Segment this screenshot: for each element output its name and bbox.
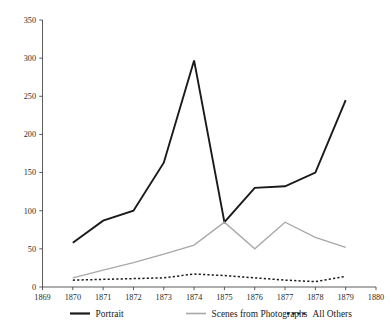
x-axis: 1869187018711872187318741875187618771878… (34, 287, 384, 302)
x-tick-label: 1873 (156, 293, 172, 302)
x-tick-label: 1874 (186, 293, 202, 302)
y-axis: 050100150200250300350 (24, 16, 43, 292)
legend-label-all-others: All Others (313, 309, 353, 319)
line-chart: 050100150200250300350 186918701871187218… (0, 0, 390, 326)
y-tick-label: 150 (24, 168, 36, 177)
y-tick-label: 0 (32, 283, 36, 292)
x-tick-label: 1878 (307, 293, 323, 302)
y-tick-label: 50 (28, 245, 36, 254)
x-tick-label: 1877 (277, 293, 293, 302)
y-tick-label: 350 (24, 16, 36, 25)
x-tick-label: 1880 (368, 293, 384, 302)
x-tick-label: 1876 (247, 293, 263, 302)
x-tick-label: 1879 (337, 293, 353, 302)
x-tick-label: 1870 (65, 293, 81, 302)
y-tick-label: 300 (24, 54, 36, 63)
series-line-all-others (73, 274, 346, 282)
legend-label-portrait: Portrait (96, 309, 125, 319)
series-line-portrait (73, 60, 346, 242)
x-tick-label: 1871 (95, 293, 111, 302)
x-tick-label: 1875 (216, 293, 232, 302)
series-line-scenes-from-photographs (73, 222, 346, 278)
series-lines (73, 60, 346, 281)
chart-legend: PortraitScenes from PhotographsAll Other… (70, 309, 352, 319)
x-tick-label: 1872 (125, 293, 141, 302)
x-tick-label: 1869 (34, 293, 50, 302)
y-tick-label: 100 (24, 207, 36, 216)
chart-canvas: 050100150200250300350 186918701871187218… (0, 0, 390, 326)
y-tick-label: 200 (24, 130, 36, 139)
y-tick-label: 250 (24, 92, 36, 101)
